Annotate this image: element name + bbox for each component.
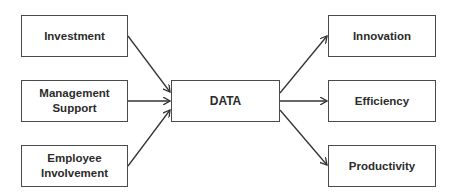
node-label: Management Support — [39, 86, 109, 116]
node-label: Innovation — [353, 29, 411, 44]
node-label: Efficiency — [355, 94, 409, 109]
arrow-investment-to-data — [128, 36, 170, 92]
node-label: Productivity — [349, 159, 415, 174]
node-employee-involvement: Employee Involvement — [21, 145, 128, 187]
node-label-line: Management — [39, 86, 109, 101]
node-label: Investment — [44, 29, 105, 44]
arrow-employee-to-data — [128, 110, 170, 166]
node-label-line: Involvement — [41, 166, 108, 181]
node-label-line: Support — [39, 101, 109, 116]
node-label-line: Employee — [41, 151, 108, 166]
arrow-data-to-innovation — [280, 36, 327, 93]
node-label: Employee Involvement — [41, 151, 108, 181]
node-data: DATA — [171, 80, 280, 122]
node-productivity: Productivity — [328, 145, 436, 187]
node-innovation: Innovation — [328, 15, 436, 57]
node-investment: Investment — [21, 15, 128, 57]
node-management-support: Management Support — [21, 80, 128, 122]
arrow-data-to-productivity — [280, 110, 327, 165]
node-efficiency: Efficiency — [328, 80, 436, 122]
node-label: DATA — [210, 94, 242, 109]
